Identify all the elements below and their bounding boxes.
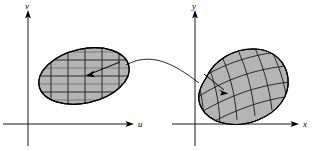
x-axis-label: x — [302, 119, 307, 129]
xy-plane-panel: y x — [172, 1, 307, 146]
image-region — [186, 42, 292, 130]
uv-plane-panel: v u — [3, 1, 143, 146]
u-axis: u — [3, 119, 143, 129]
y-axis-label: y — [191, 1, 196, 11]
figure-svg: v u — [0, 0, 314, 151]
source-region — [33, 39, 135, 115]
u-axis-label: u — [138, 119, 143, 129]
mapping-connector — [126, 59, 199, 83]
mapping-connector-path — [126, 59, 199, 83]
figure-canvas: v u — [0, 0, 314, 151]
v-axis-label: v — [25, 1, 29, 11]
image-region-outline — [199, 49, 289, 125]
